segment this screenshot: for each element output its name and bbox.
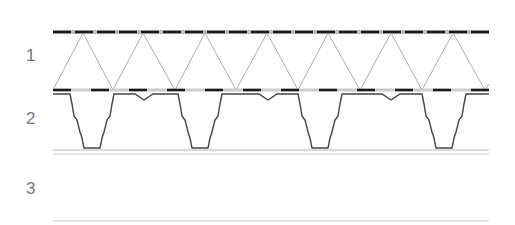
- diagram-canvas: [0, 0, 515, 225]
- truss-web: [53, 33, 489, 90]
- deck-profile: [53, 94, 489, 148]
